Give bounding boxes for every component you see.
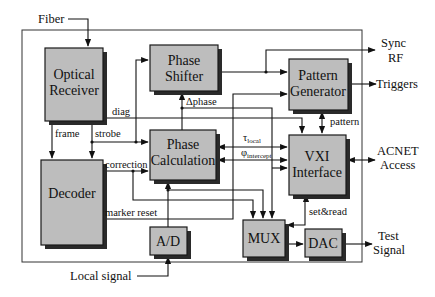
tau-local-label: τlocal [243,132,261,145]
pattern-label: pattern [330,116,360,127]
pattern-generator-label-1: Pattern [298,68,338,83]
set-read-wire [287,197,305,225]
dac-block: DAC [305,229,346,261]
strobe-to-phase-shifter-wire [136,60,148,142]
vxi-interface-label-1: VXI [305,149,330,164]
timing-system-block-diagram: Optical Receiver Phase Shifter Pattern G… [0,0,435,297]
phase-shifter-block: Phase Shifter [150,45,222,95]
triggers-label: Triggers [376,77,418,91]
frame-label: frame [55,128,80,139]
sync-rf-label-2: RF [388,51,403,65]
optical-receiver-block: Optical Receiver [45,48,107,125]
local-signal-label: Local signal [70,269,132,283]
acnet-label-1: ACNET [377,144,419,158]
delta-phase-label: Δphase [186,96,217,107]
mux-block: MUX [243,220,289,261]
optical-receiver-label-1: Optical [53,67,94,82]
strobe-label: strobe [95,128,121,139]
vxi-interface-block: VXI Interface [289,135,350,199]
phase-calculation-label-2: Calculation [151,153,216,168]
vxi-to-pattern-wire [233,94,287,196]
decoder-block: Decoder [41,160,107,249]
mux-label: MUX [248,231,281,246]
vxi-interface-label-2: Interface [292,165,342,180]
ad-label: A/D [156,234,180,249]
marker-reset-label: marker reset [105,207,157,218]
ad-converter-block: A/D [150,227,191,259]
fiber-wire [68,19,88,46]
pattern-generator-label-2: Generator [290,84,346,99]
phase-shifter-label-2: Shifter [165,69,203,84]
decoder-label: Decoder [48,186,96,201]
acnet-label-2: Access [380,158,416,172]
dac-label: DAC [308,236,338,251]
pattern-generator-block: Pattern Generator [289,59,352,114]
ad-to-mux-wire [168,190,263,218]
phi-intercept-label: φintercept [241,147,272,160]
test-signal-label-2: Signal [373,243,405,257]
test-signal-label-1: Test [378,229,399,243]
sync-rf-label-1: Sync [381,36,406,50]
phase-calculation-label-1: Phase [167,137,200,152]
phase-shifter-label-1: Phase [168,53,201,68]
fiber-label: Fiber [38,12,65,26]
local-signal-wire [137,257,168,276]
correction-label: correction [105,159,148,170]
set-read-label: set&read [309,206,348,217]
diag-label: diag [112,106,131,117]
phase-calculation-block: Phase Calculation [150,130,220,184]
optical-receiver-label-2: Receiver [49,83,99,98]
